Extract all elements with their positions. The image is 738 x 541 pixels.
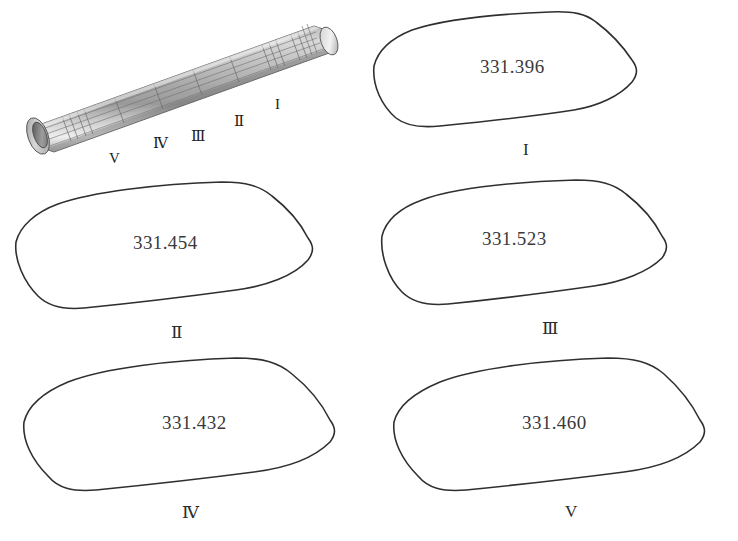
tube-station-label-2: Ⅱ — [234, 112, 244, 130]
section-label-3: Ⅲ — [542, 318, 558, 339]
section-value-2: 331.454 — [133, 232, 198, 254]
section-label-2: Ⅱ — [171, 322, 183, 343]
cross-section-panel-1: 331.396 I — [368, 4, 698, 174]
tube-station-label-1: I — [275, 96, 280, 113]
section-label-1: I — [523, 140, 529, 160]
cross-section-panel-2: 331.454 Ⅱ — [8, 176, 338, 348]
tube-barrel — [36, 26, 332, 152]
section-value-4: 331.432 — [162, 412, 227, 434]
section-value-1: 331.396 — [480, 56, 545, 78]
section-label-5: V — [565, 502, 577, 522]
tube-3d-model: I Ⅱ Ⅲ Ⅳ V — [14, 8, 354, 178]
figure-canvas: I Ⅱ Ⅲ Ⅳ V 331.396 I 331.454 Ⅱ 331.523 Ⅲ … — [0, 0, 738, 541]
cross-section-panel-3: 331.523 Ⅲ — [374, 176, 704, 348]
section-value-3: 331.523 — [482, 228, 547, 250]
section-label-4: Ⅳ — [182, 502, 199, 523]
tube-station-label-5: V — [109, 150, 120, 167]
cross-section-panel-4: 331.432 Ⅳ — [14, 350, 354, 528]
cross-section-panel-5: 331.460 V — [382, 350, 722, 528]
tube-station-label-4: Ⅳ — [153, 134, 168, 152]
section-value-5: 331.460 — [522, 412, 587, 434]
tube-shadow — [44, 49, 329, 154]
tube-station-label-3: Ⅲ — [191, 127, 205, 145]
